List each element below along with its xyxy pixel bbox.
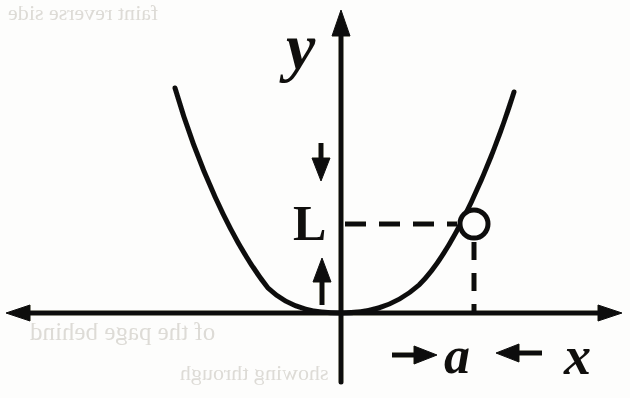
point-marker-open-circle bbox=[460, 210, 488, 238]
up-arrow-icon bbox=[313, 258, 331, 282]
down-arrow-icon bbox=[312, 158, 330, 181]
right-arrow-icon bbox=[414, 346, 437, 364]
x-axis-right-arrowhead-icon bbox=[598, 305, 622, 321]
y-axis-label: y bbox=[286, 14, 315, 80]
parabola-path bbox=[175, 88, 514, 313]
x-axis-label: x bbox=[564, 329, 591, 383]
horizontal-measure-label: a bbox=[444, 330, 470, 382]
left-arrow-icon bbox=[496, 344, 519, 362]
figure-canvas: faint reverse side of the page behind sh… bbox=[0, 0, 630, 398]
point-open-circle-icon bbox=[460, 210, 488, 238]
parabola-curve bbox=[175, 88, 514, 313]
y-axis-up-arrowhead-icon bbox=[332, 10, 350, 36]
x-axis-left-arrowhead-icon bbox=[6, 305, 30, 321]
measure-down-arrow bbox=[312, 143, 330, 181]
measure-up-arrow bbox=[313, 258, 331, 305]
y-axis bbox=[332, 10, 350, 382]
measure-right-arrow bbox=[392, 346, 437, 364]
vertical-measure-label: L bbox=[293, 198, 326, 248]
measure-left-arrow bbox=[496, 344, 542, 362]
